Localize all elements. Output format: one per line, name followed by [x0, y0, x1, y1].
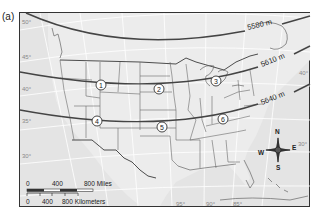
marker-3: 3	[211, 76, 221, 86]
marker-6: 6	[218, 114, 228, 124]
scale-miles-400: 400	[52, 180, 63, 187]
scale-miles-800: 800 Miles	[84, 180, 113, 187]
scale-km-0: 0	[26, 198, 30, 205]
compass-east: E	[292, 144, 297, 151]
svg-text:2: 2	[157, 86, 161, 93]
svg-text:1: 1	[99, 82, 103, 89]
lat-label: 50°	[22, 19, 32, 25]
marker-1: 1	[96, 80, 106, 90]
marker-4: 4	[92, 116, 102, 126]
compass-west: W	[258, 149, 265, 156]
compass-north: N	[275, 128, 280, 135]
lat-label: 30°	[298, 141, 308, 147]
lon-label: 85°	[233, 201, 243, 207]
scale-km-800: 800 Kilometers	[62, 198, 106, 205]
lat-label: 45°	[22, 54, 32, 60]
compass-south: S	[276, 164, 281, 171]
svg-text:3: 3	[214, 78, 218, 85]
scale-km-400: 400	[42, 198, 53, 205]
lon-label: 90°	[206, 201, 216, 207]
lat-label: 40°	[22, 86, 32, 92]
lat-label: 40°	[299, 70, 309, 76]
svg-text:6: 6	[221, 116, 225, 123]
scale-miles-0: 0	[26, 180, 30, 187]
lat-label: 35°	[22, 118, 32, 124]
svg-text:5: 5	[160, 124, 164, 131]
svg-text:4: 4	[95, 118, 99, 125]
marker-5: 5	[157, 122, 167, 132]
lon-label: 95°	[176, 201, 186, 207]
lat-label: 30°	[22, 153, 32, 159]
marker-2: 2	[154, 84, 164, 94]
map-canvas: 50° 45° 40° 35° 30° 40° 30° 95° 90° 85° …	[0, 0, 314, 218]
